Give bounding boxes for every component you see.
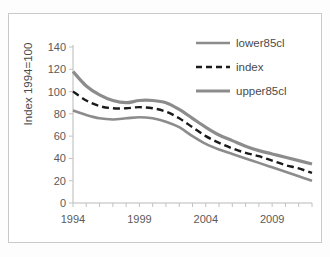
legend-label-index: index	[236, 61, 264, 73]
x-tick-label: 2009	[260, 213, 284, 225]
series-line-lower85cl	[73, 111, 312, 181]
y-tick-label: 60	[54, 130, 66, 142]
y-tick-label: 80	[54, 108, 66, 120]
y-tick-label: 20	[54, 175, 66, 187]
chart-figure: Index 1994=100 020406080100120140 199419…	[0, 0, 330, 257]
x-tick-label: 1999	[127, 213, 151, 225]
chart-legend: lower85clindexupper85cl	[196, 37, 287, 97]
x-tick-label: 1994	[61, 213, 85, 225]
legend-label-lower85cl: lower85cl	[236, 37, 285, 49]
y-tick-label: 0	[60, 197, 66, 209]
x-axis: 1994199920042009	[61, 203, 312, 225]
y-tick-label: 100	[48, 86, 66, 98]
y-tick-label: 40	[54, 152, 66, 164]
chart-canvas: 020406080100120140 1994199920042009 lowe…	[0, 0, 330, 257]
plot-area: 020406080100120140 1994199920042009 lowe…	[0, 0, 330, 257]
y-axis: 020406080100120140	[48, 41, 73, 209]
x-tick-label: 2004	[194, 213, 218, 225]
series-line-index	[73, 92, 312, 173]
y-tick-label: 140	[48, 41, 66, 53]
legend-label-upper85cl: upper85cl	[236, 85, 287, 97]
y-tick-label: 120	[48, 63, 66, 75]
